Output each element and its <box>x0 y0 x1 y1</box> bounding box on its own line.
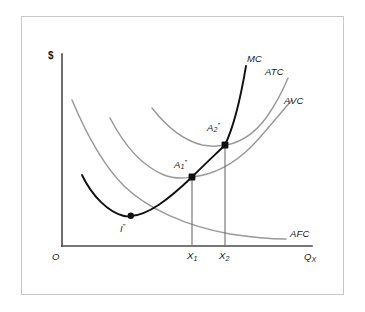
x-axis-label: QX <box>304 251 316 263</box>
point-i-sup: '' <box>123 222 125 231</box>
mc-curve-label: MC <box>247 53 262 64</box>
point-marker-a2 <box>222 142 229 149</box>
atc-curve <box>152 78 288 146</box>
point-label-i: I'' <box>120 222 125 234</box>
x-tick-1-sub: 1 <box>194 255 198 262</box>
x-tick-2-sub: 2 <box>226 255 230 262</box>
atc-curve-label: ATC <box>265 66 284 77</box>
point-a1-sup: '' <box>185 158 187 167</box>
point-a2-sup: '' <box>218 121 220 130</box>
point-marker-i <box>128 213 134 219</box>
x-axis-label-sub: X <box>312 256 317 263</box>
origin-label: O <box>52 251 60 262</box>
point-label-a1: A1'' <box>174 158 187 170</box>
x-axis-label-base: Q <box>304 251 312 262</box>
point-marker-a1 <box>189 174 196 181</box>
cost-curves-chart <box>0 0 365 312</box>
afc-curve-label: AFC <box>290 228 310 239</box>
x-tick-label-1: X1 <box>187 250 198 262</box>
figure-root: $ O QX X1 X2 MC ATC AVC AFC I'' A1'' A2'… <box>0 0 365 312</box>
avc-curve-label: AVC <box>284 95 304 106</box>
avc-curve <box>110 100 292 178</box>
y-axis-label: $ <box>48 50 54 61</box>
mc-curve <box>82 66 246 216</box>
x-tick-label-2: X2 <box>219 250 230 262</box>
point-label-a2: A2'' <box>207 121 220 133</box>
